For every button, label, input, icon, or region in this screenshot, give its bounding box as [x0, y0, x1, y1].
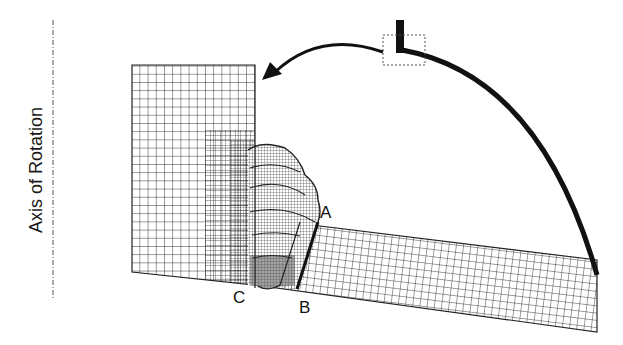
- arrow-head-icon: [262, 62, 282, 80]
- mesh-block: [132, 65, 255, 290]
- diagram-canvas: [0, 0, 623, 345]
- curved-arrow: [275, 44, 383, 72]
- axis-label: Axis of Rotation: [26, 107, 47, 233]
- label-c: C: [233, 289, 245, 306]
- label-a: A: [320, 204, 331, 221]
- l-cross-section: [396, 20, 410, 53]
- label-b: B: [299, 299, 310, 316]
